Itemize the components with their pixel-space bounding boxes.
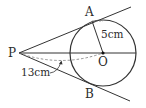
geometry-figure [0, 0, 146, 108]
arrow-head-icon [59, 61, 63, 65]
dashed-arc-po [19, 53, 103, 61]
label-o: O [98, 56, 108, 68]
label-radius: 5cm [101, 29, 124, 40]
label-distance: 13cm [21, 67, 50, 78]
label-a: A [85, 6, 94, 18]
label-b: B [85, 88, 94, 100]
tangent-diagram: A P O B 5cm 13cm [0, 0, 146, 108]
label-p: P [8, 47, 16, 59]
